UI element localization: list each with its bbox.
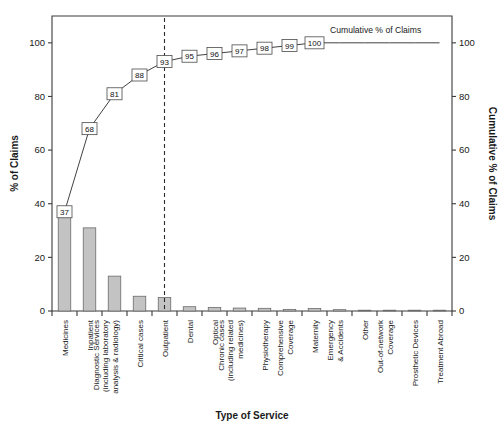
x-axis-category-label: Treatment Abroad bbox=[436, 320, 445, 384]
x-axis-category-label: Out-of-network bbox=[376, 319, 385, 373]
y2-axis-tick-label: 100 bbox=[459, 37, 475, 48]
bar bbox=[308, 309, 321, 311]
x-axis-category-label: (including related bbox=[226, 320, 235, 381]
y2-axis-title: Cumulative % of Claims bbox=[487, 107, 498, 221]
x-axis-category-label: Emergency bbox=[326, 320, 335, 360]
data-label-value: 95 bbox=[185, 52, 194, 61]
x-axis-category-label: Coverage bbox=[386, 319, 395, 354]
x-axis-category-label: Prosthetic Devices bbox=[411, 320, 420, 386]
y-axis-tick-label: 20 bbox=[34, 252, 45, 263]
x-axis-title: Type of Service bbox=[215, 410, 289, 421]
bar bbox=[408, 310, 421, 311]
bar bbox=[83, 228, 96, 311]
x-axis-category-label: & Accidents bbox=[336, 320, 345, 362]
bar bbox=[208, 308, 221, 311]
y-axis-tick-label: 40 bbox=[34, 198, 45, 209]
bar bbox=[133, 296, 146, 311]
bar bbox=[383, 310, 396, 311]
data-label-value: 97 bbox=[235, 47, 244, 56]
y2-axis-tick-label: 20 bbox=[459, 252, 470, 263]
bar bbox=[333, 310, 346, 311]
data-label-value: 100 bbox=[308, 39, 322, 48]
bar bbox=[58, 212, 71, 311]
bar bbox=[258, 308, 271, 311]
x-axis-category-label: Other bbox=[361, 320, 370, 340]
chart-canvas: 0204060801000204060801003768818893959697… bbox=[0, 0, 501, 434]
data-label-value: 99 bbox=[285, 42, 294, 51]
y-axis-title: % of Claims bbox=[9, 135, 20, 192]
bar bbox=[358, 310, 371, 311]
x-axis-category-label: Maternity bbox=[311, 320, 320, 353]
bar bbox=[183, 307, 196, 311]
y-axis-tick-label: 60 bbox=[34, 144, 45, 155]
cumulative-line bbox=[65, 43, 440, 212]
bar bbox=[233, 308, 246, 311]
bar bbox=[108, 276, 121, 311]
cumulative-annotation: Cumulative % of Claims bbox=[330, 25, 421, 35]
x-axis-category-label: Dental bbox=[186, 320, 195, 343]
y2-axis-tick-label: 80 bbox=[459, 91, 470, 102]
y2-axis-tick-label: 40 bbox=[459, 198, 470, 209]
data-label-value: 81 bbox=[110, 90, 119, 99]
x-axis-category-label: analysis & radiology) bbox=[111, 320, 120, 394]
bar bbox=[433, 310, 446, 311]
x-axis-category-label: Critical cases bbox=[136, 320, 145, 368]
data-label-value: 96 bbox=[210, 50, 219, 59]
y2-axis-tick-label: 0 bbox=[459, 305, 464, 316]
x-axis-category-label: Medicines bbox=[61, 320, 70, 356]
x-axis-category-label: Outpatient bbox=[161, 319, 170, 357]
x-axis-category-label: Comprehensive bbox=[276, 319, 285, 376]
x-axis-category-label: (including laboratory bbox=[101, 320, 110, 392]
x-axis-category-label: Chronic cases bbox=[217, 320, 226, 371]
y-axis-tick-label: 0 bbox=[40, 305, 45, 316]
data-label-value: 88 bbox=[135, 71, 144, 80]
plot-frame bbox=[52, 16, 452, 311]
data-label-value: 68 bbox=[85, 125, 94, 134]
pareto-chart: 0204060801000204060801003768818893959697… bbox=[0, 0, 501, 434]
y-axis-tick-label: 100 bbox=[29, 37, 45, 48]
x-axis-category-label: Diagnostic Services bbox=[92, 320, 101, 390]
data-label-value: 93 bbox=[160, 58, 169, 67]
bar bbox=[283, 309, 296, 311]
y2-axis-tick-label: 60 bbox=[459, 144, 470, 155]
y-axis-tick-label: 80 bbox=[34, 91, 45, 102]
x-axis-category-label: Physiotherapy bbox=[261, 320, 270, 371]
data-label-value: 98 bbox=[260, 44, 269, 53]
x-axis-category-label: Coverage bbox=[286, 319, 295, 354]
data-label-value: 37 bbox=[60, 208, 69, 217]
x-axis-category-label: medicines) bbox=[236, 320, 245, 359]
